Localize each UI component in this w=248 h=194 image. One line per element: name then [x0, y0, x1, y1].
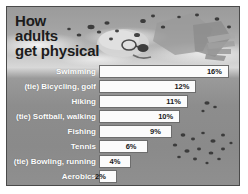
bar [99, 140, 148, 153]
category-label: (tie) Bicycling, golf [7, 80, 96, 93]
infographic-panel: How adults get physical Swimming16%(tie)… [6, 6, 240, 186]
chart-row: (tie) Softball, walking10% [7, 110, 240, 123]
title-line-1: How [15, 13, 135, 28]
chart-row: (tie) Bowling, running4% [7, 155, 240, 168]
bar-value-label: 10% [158, 110, 173, 123]
bar-value-label: 16% [207, 65, 222, 78]
category-label: Hiking [7, 95, 96, 108]
title-line-2: adults [15, 28, 135, 43]
bar-track: 10% [99, 110, 237, 123]
bar-value-label: 9% [150, 125, 161, 138]
category-label: Swimming [7, 65, 96, 78]
category-label: (tie) Softball, walking [7, 110, 96, 123]
chart-row: (tie) Bicycling, golf12% [7, 80, 240, 93]
chart-row: Fishing9% [7, 125, 240, 138]
chart-row: Swimming16% [7, 65, 240, 78]
bar-track: 16% [99, 65, 237, 78]
bar-value-label: 12% [174, 80, 189, 93]
bar [99, 125, 172, 138]
title-line-3: get physical [15, 43, 135, 58]
category-label: Tennis [7, 140, 96, 153]
category-label: Fishing [7, 125, 96, 138]
bar-value-label: 4% [109, 155, 120, 168]
page-title: How adults get physical [15, 13, 135, 58]
bar-track: 4% [99, 155, 237, 168]
chart-row: Hiking11% [7, 95, 240, 108]
bar-track: 11% [99, 95, 237, 108]
bar-track: 2% [99, 170, 237, 183]
category-label: Aerobics [7, 170, 96, 183]
chart-row: Tennis6% [7, 140, 240, 153]
chart-row: Aerobics2% [7, 170, 240, 183]
bar-value-label: 11% [166, 95, 181, 108]
bar-track: 6% [99, 140, 237, 153]
bar-value-label: 2% [95, 170, 106, 183]
category-label: (tie) Bowling, running [7, 155, 96, 168]
bar-value-label: 6% [126, 140, 137, 153]
bar-track: 9% [99, 125, 237, 138]
bar-track: 12% [99, 80, 237, 93]
bar-chart: Swimming16%(tie) Bicycling, golf12%Hikin… [7, 65, 240, 185]
